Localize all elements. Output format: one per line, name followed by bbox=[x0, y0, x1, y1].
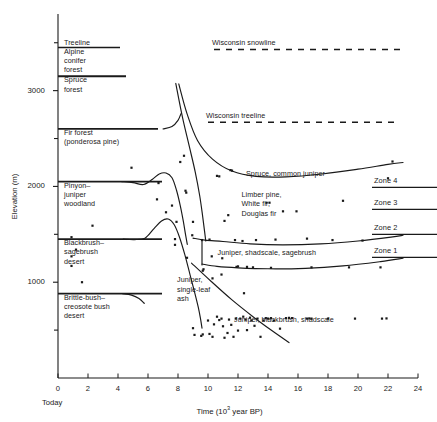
x-axis-title-main: Time (10 bbox=[197, 407, 227, 416]
vegetation-band-line: Alpine bbox=[64, 47, 86, 56]
curve-annotation-label: Limber pine,White fir,Douglas fir bbox=[242, 190, 282, 218]
vegetation-band-line: desert bbox=[64, 311, 110, 320]
boundary-curve bbox=[193, 235, 403, 245]
scatter-point bbox=[223, 337, 225, 339]
scatter-point bbox=[220, 273, 222, 275]
zone-label: Zone 1 bbox=[374, 246, 397, 255]
x-tick-label: 4 bbox=[113, 384, 123, 393]
curve-annotation-line: single-leaf bbox=[177, 285, 210, 294]
scatter-point bbox=[207, 319, 209, 321]
scatter-point bbox=[165, 211, 167, 213]
scatter-point bbox=[91, 225, 93, 227]
vegetation-band-line: Brittle-bush– bbox=[64, 293, 110, 302]
x-axis-title: Time (103 year BP) bbox=[188, 398, 263, 422]
x-axis-ticks bbox=[58, 374, 418, 379]
x-tick-label: 6 bbox=[143, 384, 153, 393]
scatter-point bbox=[156, 198, 158, 200]
vegetation-band-line: woodland bbox=[64, 199, 95, 208]
scatter-point bbox=[241, 240, 243, 242]
scatter-point bbox=[259, 336, 261, 338]
x-tick-label: 8 bbox=[173, 384, 183, 393]
x-tick-label: 12 bbox=[233, 384, 243, 393]
boundary-curve bbox=[122, 173, 188, 245]
scatter-point bbox=[175, 221, 177, 223]
vegetation-band-line: Fir forest bbox=[64, 128, 119, 137]
scatter-point bbox=[81, 281, 83, 283]
scatter-point bbox=[232, 336, 234, 338]
scatter-point bbox=[174, 244, 176, 246]
scatter-point bbox=[243, 292, 245, 294]
boundary-curve bbox=[202, 258, 403, 269]
scatter-point bbox=[227, 214, 229, 216]
scatter-point bbox=[274, 238, 276, 240]
vegetation-band-label: Brittle-bush–creosote bushdesert bbox=[64, 293, 110, 321]
scatter-point bbox=[282, 210, 284, 212]
scatter-point bbox=[216, 175, 218, 177]
vegetation-band-line: Pinyon– bbox=[64, 181, 95, 190]
reference-line-label: Wisconsin snowline bbox=[212, 38, 276, 47]
scatter-point bbox=[202, 268, 204, 270]
curve-annotation-line: Juniper, bbox=[177, 275, 210, 284]
scatter-point bbox=[255, 239, 257, 241]
scatter-point bbox=[234, 239, 236, 241]
scatter-point bbox=[201, 239, 203, 241]
vegetation-band-line: juniper bbox=[64, 190, 95, 199]
scatter-point bbox=[226, 332, 228, 334]
scatter-point bbox=[193, 334, 195, 336]
x-tick-label: 24 bbox=[413, 384, 423, 393]
scatter-point bbox=[385, 317, 387, 319]
curve-annotation-line: Juniper, shadscale, sagebrush bbox=[218, 248, 317, 257]
scatter-point bbox=[211, 336, 213, 338]
curve-annotation-label: Spruce, common juniper bbox=[246, 169, 325, 178]
vegetation-band-line: Blackbrush– bbox=[64, 238, 104, 247]
scatter-point bbox=[391, 160, 393, 162]
curve-annotation-line: Spruce, common juniper bbox=[246, 169, 325, 178]
vegetation-band-label: Pinyon–juniperwoodland bbox=[64, 181, 95, 209]
scatter-point bbox=[222, 325, 224, 327]
scatter-point bbox=[231, 170, 233, 172]
scatter-point bbox=[208, 238, 210, 240]
scatter-point bbox=[237, 265, 239, 267]
vegetation-band-line: (ponderosa pine) bbox=[64, 137, 119, 146]
scatter-point bbox=[246, 266, 248, 268]
scatter-point bbox=[228, 318, 230, 320]
zone-label: Zone 3 bbox=[374, 198, 397, 207]
scatter-point bbox=[295, 210, 297, 212]
scatter-point bbox=[157, 182, 159, 184]
scatter-point bbox=[331, 239, 333, 241]
scatter-point bbox=[171, 204, 173, 206]
scatter-point bbox=[381, 318, 383, 320]
scatter-point bbox=[218, 319, 220, 321]
curve-annotation-line: ash bbox=[177, 294, 210, 303]
scatter-point bbox=[221, 257, 223, 259]
zone-label: Zone 4 bbox=[374, 176, 397, 185]
curve-annotation-line: Limber pine, bbox=[242, 190, 282, 199]
scatter-point bbox=[237, 329, 239, 331]
zone-label: Zone 2 bbox=[374, 223, 397, 232]
vegetation-band-line: forest bbox=[64, 65, 86, 74]
scatter-point bbox=[279, 328, 281, 330]
scatter-point bbox=[202, 333, 204, 335]
y-axis-ticks bbox=[53, 43, 58, 330]
scatter-point bbox=[191, 234, 193, 236]
x-tick-label: 18 bbox=[323, 384, 333, 393]
scatter-point bbox=[192, 221, 194, 223]
scatter-point bbox=[183, 155, 185, 157]
x-tick-label: 14 bbox=[263, 384, 273, 393]
vegetation-band-label: Fir forest(ponderosa pine) bbox=[64, 128, 119, 147]
boundary-curve bbox=[179, 84, 403, 177]
scatter-point bbox=[216, 316, 218, 318]
scatter-point bbox=[310, 266, 312, 268]
curve-annotation-line: Juniper, blackbrush, shadscale bbox=[234, 315, 334, 324]
scatter-point bbox=[246, 329, 248, 331]
scatter-point bbox=[130, 167, 132, 169]
reference-line-label: Wisconsin treeline bbox=[206, 111, 265, 120]
boundary-curve bbox=[123, 219, 202, 328]
vegetation-band-label: Alpineconiferforest bbox=[64, 47, 86, 75]
vegetation-band-line: Spruce bbox=[64, 75, 87, 84]
y-tick-label: 3000 bbox=[17, 86, 45, 95]
scatter-point bbox=[192, 327, 194, 329]
scatter-point bbox=[174, 238, 176, 240]
curve-annotation-label: Juniper, shadscale, sagebrush bbox=[218, 248, 317, 257]
vegetation-band-line: conifer bbox=[64, 56, 86, 65]
